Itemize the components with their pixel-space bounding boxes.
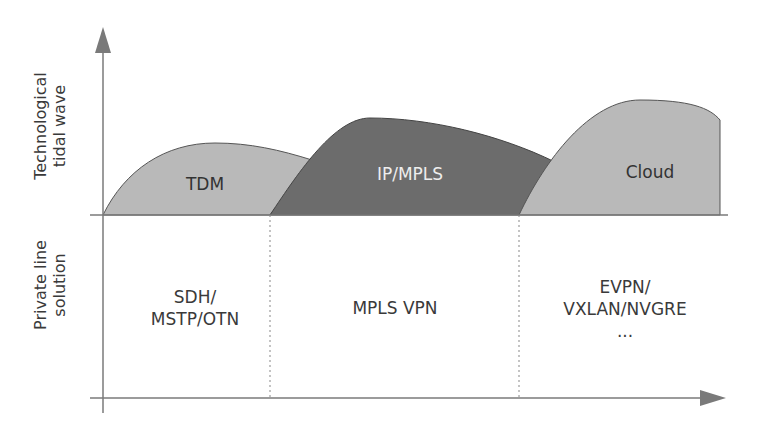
solution-3-line3: ... [540, 320, 710, 342]
y-top-label: Technological tidal wave [31, 66, 71, 186]
y-bottom-label: Private line solution [31, 225, 71, 345]
cloud-label: Cloud [610, 161, 690, 183]
y-top-label-line2: tidal wave [50, 66, 69, 186]
y-bottom-label-line1: Private line [31, 225, 50, 345]
cloud-wave [519, 100, 720, 215]
ipmpls-label: IP/MPLS [350, 163, 470, 185]
y-top-label-line1: Technological [31, 66, 50, 186]
solution-2-line1: MPLS VPN [320, 297, 470, 319]
tdm-label: TDM [160, 173, 250, 195]
solution-2: MPLS VPN [320, 297, 470, 319]
y-axis-arrow-icon [95, 27, 111, 53]
solution-1: SDH/ MSTP/OTN [130, 286, 260, 330]
solution-1-line2: MSTP/OTN [130, 308, 260, 330]
solution-1-line1: SDH/ [130, 286, 260, 308]
solution-3-line1: EVPN/ [540, 276, 710, 298]
y-bottom-label-line2: solution [50, 225, 69, 345]
diagram-canvas [0, 0, 763, 438]
x-axis-arrow-icon [700, 390, 726, 406]
solution-3-line2: VXLAN/NVGRE [540, 298, 710, 320]
solution-3: EVPN/ VXLAN/NVGRE ... [540, 276, 710, 342]
